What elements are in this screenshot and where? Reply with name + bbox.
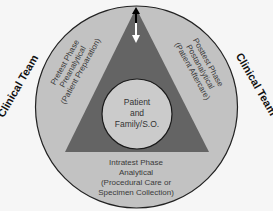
svg-text:Intratest Phase: Intratest Phase xyxy=(109,158,163,167)
svg-text:Patient: Patient xyxy=(124,97,151,107)
intratest-label: Intratest Phase Analytical (Procedural C… xyxy=(98,158,174,197)
svg-text:Specimen Collection): Specimen Collection) xyxy=(98,188,174,197)
svg-text:and: and xyxy=(130,108,144,118)
svg-text:(Procedural Care or: (Procedural Care or xyxy=(101,178,172,187)
svg-text:Analytical: Analytical xyxy=(119,168,153,177)
left-team-label: Clinical Team xyxy=(0,52,40,119)
right-team-label: Clinical Team xyxy=(234,51,273,118)
svg-text:Family/S.O.: Family/S.O. xyxy=(115,119,159,129)
clinical-team-diagram: Clinical Team Clinical Team Pretest Phas… xyxy=(0,0,273,211)
